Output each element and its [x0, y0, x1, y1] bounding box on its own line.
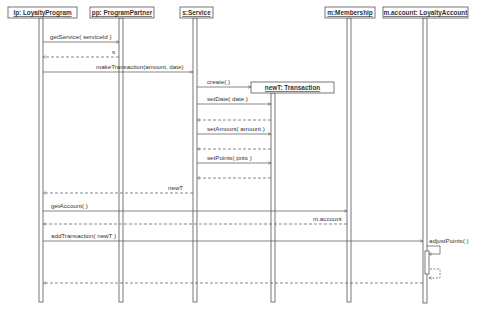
label-create: create( )	[207, 78, 230, 85]
object-label-pp: pp: ProgramPartner	[92, 9, 153, 17]
object-box-s: s:Service	[180, 7, 213, 18]
lifeline-pp	[119, 18, 123, 302]
label-return-newT: newT	[168, 184, 183, 191]
object-label-s: s:Service	[182, 9, 211, 16]
object-box-newT: newT: Transaction	[251, 82, 334, 93]
label-return-m-account: m.account	[313, 215, 342, 222]
message-labels: getService( serviceId ) s makeTransactio…	[50, 33, 469, 244]
label-get-account: getAccount( )	[51, 202, 88, 209]
messages	[43, 42, 440, 283]
object-boxes: lp: LoyaltyProgram pp: ProgramPartner s:…	[8, 7, 468, 93]
object-label-acct: m.account: LoyaltyAccount	[384, 9, 469, 17]
object-box-pp: pp: ProgramPartner	[90, 7, 154, 18]
activation-adjust-points	[425, 251, 429, 274]
lifeline-newT	[271, 93, 275, 302]
object-label-m: m:Membership	[327, 9, 373, 17]
object-box-lp: lp: LoyaltyProgram	[8, 7, 77, 18]
label-return-s: s	[112, 48, 115, 55]
label-adjust-points: adjustPoints( )	[429, 237, 469, 244]
return-adjust-points	[429, 269, 440, 278]
label-get-service: getService( serviceId )	[50, 33, 112, 40]
object-label-lp: lp: LoyaltyProgram	[13, 9, 72, 17]
object-box-m: m:Membership	[325, 7, 375, 18]
label-set-amount: setAmount( amount )	[207, 125, 265, 132]
object-label-newT: newT: Transaction	[265, 84, 320, 91]
sequence-diagram: lp: LoyaltyProgram pp: ProgramPartner s:…	[0, 0, 480, 312]
label-make-transaction: makeTransaction(amount, date)	[96, 63, 183, 70]
label-add-transaction: addTransaction( newT )	[51, 232, 116, 239]
object-box-acct: m.account: LoyaltyAccount	[383, 7, 468, 18]
label-set-date: setDate( date )	[207, 95, 248, 102]
lifeline-m	[347, 18, 351, 302]
lifeline-lp	[39, 18, 43, 302]
lifeline-s	[193, 18, 197, 302]
label-set-points: setPoints( pnts )	[207, 154, 252, 161]
